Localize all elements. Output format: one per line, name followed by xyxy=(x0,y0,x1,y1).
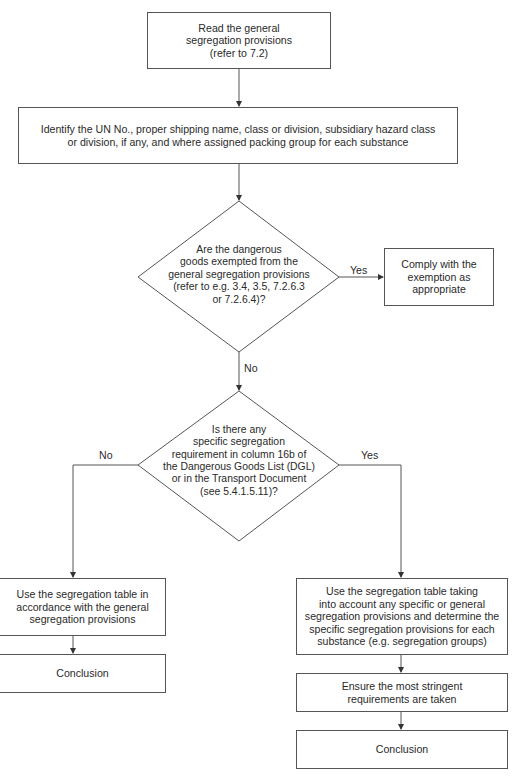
node-text-line: or in the Transport Document xyxy=(163,473,315,485)
node-text-line: Use the segregation table in xyxy=(16,588,149,601)
node-text-line: exemption as xyxy=(401,271,476,284)
node-text-line: (see 5.4.1.5.11)? xyxy=(163,486,315,498)
node-text-line: Conclusion xyxy=(56,667,108,680)
edge-label-specific-no: No xyxy=(99,449,113,461)
node-text-line: Comply with the xyxy=(401,258,476,271)
node-text-line: requirement in column 16b of xyxy=(163,449,315,461)
edge-label-exempt-no: No xyxy=(244,362,258,374)
node-read-general-provisions: Read the general segregation provisions … xyxy=(147,12,331,69)
node-identify-substance: Identify the UN No., proper shipping nam… xyxy=(18,107,458,164)
decision-exempt-text: Are the dangerous goods exempted from th… xyxy=(150,240,328,310)
edge-specific-yes xyxy=(339,465,401,577)
edge-label-exempt-yes: Yes xyxy=(350,264,367,276)
node-text-line: (refer to 7.2) xyxy=(186,47,292,60)
node-text-line: general segregation provisions xyxy=(168,269,310,281)
node-text-line: or 7.2.6.4)? xyxy=(168,294,310,306)
node-text-line: appropriate xyxy=(401,283,476,296)
edge-label-specific-yes: Yes xyxy=(361,449,378,461)
node-text-line: or division, if any, and where assigned … xyxy=(41,136,436,149)
node-text-line: specific segregation provisions for each xyxy=(305,623,499,636)
decision-specific-text: Is there any specific segregation requir… xyxy=(150,420,328,502)
node-text-line: segregation provisions and determine the xyxy=(305,610,499,623)
node-conclusion-right: Conclusion xyxy=(296,730,508,769)
node-text-line: Use the segregation table taking xyxy=(305,585,499,598)
node-text-line: Conclusion xyxy=(376,743,428,756)
node-text-line: into account any specific or general xyxy=(305,598,499,611)
node-conclusion-left: Conclusion xyxy=(0,654,166,693)
node-comply-exemption: Comply with the exemption as appropriate xyxy=(384,248,494,306)
node-ensure-stringent: Ensure the most stringent requirements a… xyxy=(296,673,508,712)
edge-specific-no xyxy=(73,465,138,577)
node-text-line: the Dangerous Goods List (DGL) xyxy=(163,461,315,473)
node-text-line: Is there any xyxy=(163,424,315,436)
node-text-line: Ensure the most stringent xyxy=(342,680,463,693)
node-text-line: accordance with the general xyxy=(16,601,149,614)
node-use-table-general: Use the segregation table in accordance … xyxy=(0,578,166,636)
node-text-line: Read the general xyxy=(186,22,292,35)
node-text-line: Are the dangerous xyxy=(168,244,310,256)
node-use-table-specific: Use the segregation table taking into ac… xyxy=(296,578,508,655)
node-text-line: segregation provisions xyxy=(186,34,292,47)
node-text-line: substance (e.g. segregation groups) xyxy=(305,635,499,648)
flowchart: Read the general segregation provisions … xyxy=(0,0,516,776)
node-text-line: (refer to e.g. 3.4, 3.5, 7.2.6.3 xyxy=(168,281,310,293)
node-text-line: segregation provisions xyxy=(16,613,149,626)
node-text-line: specific segregation xyxy=(163,436,315,448)
node-text-line: requirements are taken xyxy=(342,693,463,706)
node-text-line: Identify the UN No., proper shipping nam… xyxy=(41,123,436,136)
node-text-line: goods exempted from the xyxy=(168,256,310,268)
